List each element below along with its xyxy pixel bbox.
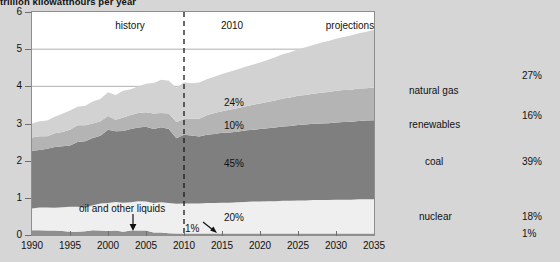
x-axis-tick-label: 2005: [126, 240, 166, 251]
x-axis-tick-label: 2030: [316, 240, 356, 251]
x-axis-tick-label: 2035: [354, 240, 394, 251]
y-axis-tick-label: 4: [0, 81, 22, 91]
x-axis-tick-label: 2025: [278, 240, 318, 251]
oil-share-arrow-icon: [202, 221, 218, 234]
series-label-natural-gas: natural gas: [409, 85, 458, 96]
x-axis-tick-mark: [146, 231, 147, 236]
oil-callout-arrow-icon: [126, 214, 140, 232]
x-axis-tick-mark: [336, 231, 337, 236]
x-axis-tick-label: 1995: [50, 240, 90, 251]
y-axis-tick-label: 6: [0, 7, 22, 17]
share-2035-renewables: 16%: [522, 110, 542, 121]
share-2035-coal: 39%: [522, 156, 542, 167]
oil-callout-label: oil and other liquids: [79, 203, 165, 214]
share-2010-natural-gas: 24%: [208, 97, 244, 108]
y-axis-tick-label: 2: [0, 156, 22, 166]
x-axis-tick-mark: [298, 231, 299, 236]
x-axis-tick-mark: [70, 231, 71, 236]
x-axis-tick-mark: [108, 231, 109, 236]
y-axis-tick-label: 1: [0, 193, 22, 203]
area-series-svg: [32, 12, 374, 235]
share-2035-oil: 1%: [522, 228, 536, 239]
series-label-renewables: renewables: [409, 119, 460, 130]
y-axis-tick-label: 3: [0, 119, 22, 129]
series-label-coal: coal: [425, 156, 443, 167]
series-label-nuclear: nuclear: [419, 211, 452, 222]
divider-year-label: 2010: [202, 20, 262, 31]
projections-label: projections: [290, 20, 410, 31]
y-axis-tick-label: 0: [0, 230, 22, 240]
stacked-area-chart: trillion kilowatthours per year 0123456 …: [0, 0, 560, 262]
x-axis-tick-mark: [222, 231, 223, 236]
share-2010-coal: 45%: [208, 158, 244, 169]
x-axis-tick-label: 2010: [164, 240, 204, 251]
x-axis-tick-label: 2015: [202, 240, 242, 251]
share-2035-nuclear: 18%: [522, 211, 542, 222]
share-2035-natural-gas: 27%: [522, 70, 542, 81]
y-axis-tick-label: 5: [0, 44, 22, 54]
x-axis-tick-label: 2000: [88, 240, 128, 251]
share-2010-renewables: 10%: [208, 120, 244, 131]
x-axis-tick-mark: [260, 231, 261, 236]
x-axis-tick-label: 2020: [240, 240, 280, 251]
share-2010-oil: 1%: [185, 223, 199, 234]
x-axis-tick-label: 1990: [12, 240, 52, 251]
history-label: history: [70, 20, 190, 31]
